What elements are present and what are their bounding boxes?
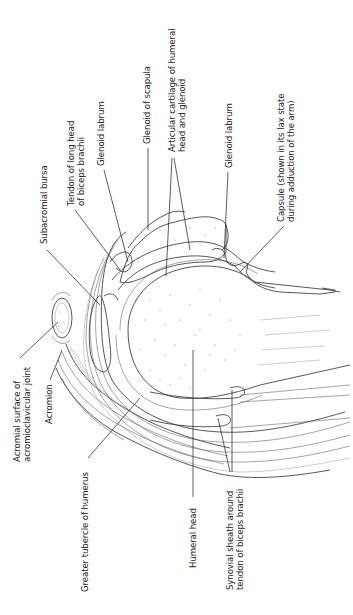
leader-capsule xyxy=(240,226,284,272)
leader-acromial-surface xyxy=(20,322,58,358)
label-subacromial-bursa: Subacromial bursa xyxy=(39,165,49,244)
bone-stipple xyxy=(58,227,241,388)
svg-text:during adduction of the arm): during adduction of the arm) xyxy=(286,101,296,222)
label-synovial-sheath: Synovial sheath around tendon of biceps … xyxy=(225,489,245,590)
svg-text:Glenoid labrum: Glenoid labrum xyxy=(224,103,234,168)
label-articular-cartilage: Articular cartilage of humeral head and … xyxy=(167,29,187,152)
label-glenoid-labrum-lower: Glenoid labrum xyxy=(224,103,234,168)
labels: Acromial surface of acromioclavicular jo… xyxy=(12,29,296,592)
anatomy-drawing xyxy=(52,211,350,477)
label-greater-tubercle: Greater tubercle of humerus xyxy=(80,472,90,592)
label-glenoid-labrum-upper: Glenoid labrum xyxy=(96,101,106,166)
svg-text:Capsule (shown in its lax stat: Capsule (shown in its lax state xyxy=(276,94,286,222)
leader-tendon-long-head xyxy=(75,210,120,270)
svg-text:acromioclavicular joint: acromioclavicular joint xyxy=(22,366,32,462)
svg-text:Glenoid of scapula: Glenoid of scapula xyxy=(142,66,152,144)
glenoid-labrum-folds xyxy=(110,225,248,272)
svg-text:Synovial sheath around: Synovial sheath around xyxy=(225,491,235,590)
label-acromial-surface: Acromial surface of acromioclavicular jo… xyxy=(12,366,32,462)
svg-text:Tendon of long head: Tendon of long head xyxy=(66,121,76,207)
svg-text:of biceps brachii: of biceps brachii xyxy=(76,137,86,206)
leader-glenoid-labrum-upper xyxy=(104,170,128,262)
svg-text:Articular cartilage of humeral: Articular cartilage of humeral xyxy=(167,29,177,152)
label-humeral-head: Humeral head xyxy=(188,508,198,568)
synovial-sheath-loops xyxy=(150,385,350,428)
glenoid-scapula-bone xyxy=(120,211,226,283)
capsule-outline xyxy=(235,266,335,294)
label-tendon-long-head: Tendon of long head of biceps brachii xyxy=(66,121,86,207)
acromial-facet xyxy=(52,293,72,344)
leader-greater-tubercle xyxy=(88,398,140,458)
shoulder-joint-diagram: Acromial surface of acromioclavicular jo… xyxy=(0,0,353,615)
svg-text:Glenoid labrum: Glenoid labrum xyxy=(96,101,106,166)
soft-tissue-fibers xyxy=(258,315,330,365)
leader-articular-cartilage-b xyxy=(174,158,190,250)
svg-text:tendon of biceps brachii: tendon of biceps brachii xyxy=(235,489,245,590)
leader-subacromial-bursa xyxy=(47,250,100,305)
articular-cartilage-lines xyxy=(112,242,275,290)
svg-text:Subacromial bursa: Subacromial bursa xyxy=(39,165,49,244)
label-acromion: Acromion xyxy=(44,384,54,424)
leader-lines xyxy=(20,148,284,497)
label-glenoid-scapula: Glenoid of scapula xyxy=(142,66,152,144)
svg-text:Acromial surface of: Acromial surface of xyxy=(12,380,22,462)
svg-text:Humeral head: Humeral head xyxy=(188,508,198,568)
svg-text:Greater tubercle of humerus: Greater tubercle of humerus xyxy=(80,472,90,592)
label-capsule: Capsule (shown in its lax state during a… xyxy=(276,94,296,222)
svg-text:head and glenoid: head and glenoid xyxy=(177,79,187,152)
subacromial-bursa-sac xyxy=(89,294,118,372)
svg-text:Acromion: Acromion xyxy=(44,384,54,424)
